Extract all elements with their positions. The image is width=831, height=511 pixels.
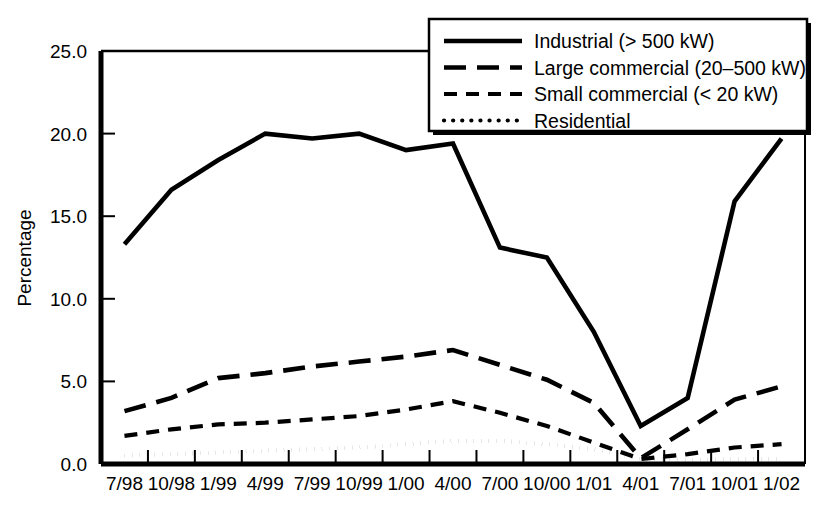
y-tick-label: 15.0 xyxy=(50,206,87,227)
x-tick-label: 4/00 xyxy=(435,473,472,494)
x-tick-label: 1/01 xyxy=(575,473,612,494)
legend: Industrial (> 500 kW)Large commercial (2… xyxy=(429,19,811,135)
y-tick-label: 25.0 xyxy=(50,41,87,62)
y-tick-label: 0.0 xyxy=(61,454,87,475)
legend-label-4: Residential xyxy=(534,110,630,132)
x-tick-label: 1/99 xyxy=(200,473,237,494)
x-tick-label: 4/99 xyxy=(247,473,284,494)
legend-label-1: Industrial (> 500 kW) xyxy=(534,30,714,52)
x-tick-label: 7/01 xyxy=(669,473,706,494)
legend-label-2: Large commercial (20–500 kW) xyxy=(534,57,806,79)
y-tick-label: 5.0 xyxy=(61,371,87,392)
series-line-1 xyxy=(124,134,781,426)
x-tick-label: 10/00 xyxy=(523,473,571,494)
x-tick-label: 10/01 xyxy=(711,473,759,494)
series-line-4 xyxy=(124,441,781,460)
y-axis-title: Percentage xyxy=(14,209,35,306)
x-tick-label: 4/01 xyxy=(622,473,659,494)
legend-shadow-right xyxy=(807,23,811,135)
chart-figure: 0.05.010.015.020.025.0 7/9810/981/994/99… xyxy=(0,0,831,511)
x-tick-label: 10/99 xyxy=(335,473,383,494)
x-tick-label: 10/98 xyxy=(148,473,196,494)
x-tick-label: 1/02 xyxy=(763,473,800,494)
legend-shadow-bottom xyxy=(433,131,811,135)
y-tick-label: 10.0 xyxy=(50,289,87,310)
x-tick-label: 1/00 xyxy=(388,473,425,494)
y-tick-label: 20.0 xyxy=(50,124,87,145)
x-tick-label: 7/00 xyxy=(481,473,518,494)
y-axis-tick-labels: 0.05.010.015.020.025.0 xyxy=(50,41,87,475)
legend-label-3: Small commercial (< 20 kW) xyxy=(534,83,778,105)
series-line-2 xyxy=(124,350,781,458)
x-tick-label: 7/99 xyxy=(294,473,331,494)
x-axis-tick-labels: 7/9810/981/994/997/9910/991/004/007/0010… xyxy=(106,473,800,494)
line-chart: 0.05.010.015.020.025.0 7/9810/981/994/99… xyxy=(0,0,831,511)
data-series-group xyxy=(124,134,781,460)
x-tick-label: 7/98 xyxy=(106,473,143,494)
